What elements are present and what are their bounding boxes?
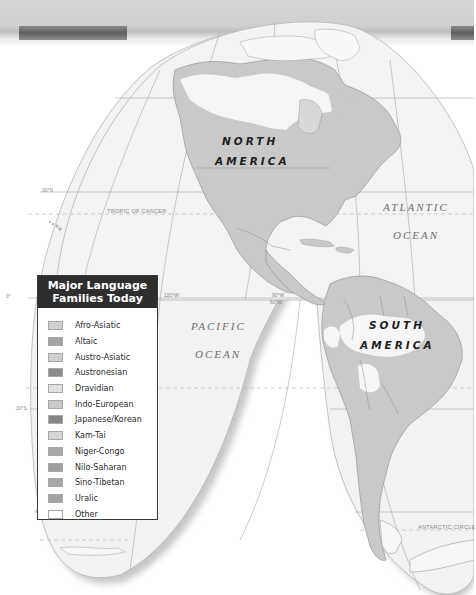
legend-label: Kam-Tai: [75, 431, 106, 440]
legend-item-uralic: Uralic: [38, 491, 157, 507]
swatch-icon: [48, 431, 63, 440]
label-tropic-of-cancer: TROPIC OF CANCER: [107, 208, 167, 214]
label-lat-30n: 30°N: [42, 187, 53, 193]
legend-label: Japanese/Korean: [75, 415, 142, 424]
swatch-icon: [48, 415, 63, 424]
swatch-icon: [48, 321, 63, 330]
label-lat-30s: 30°S: [16, 405, 27, 411]
label-north-america-line2: AMERICA: [215, 155, 290, 167]
label-north-america-line1: NORTH: [222, 135, 278, 147]
swatch-icon: [48, 400, 63, 409]
legend-label: Altaic: [75, 337, 97, 346]
legend-title-line1: Major Language: [40, 279, 155, 292]
legend-item-altaic: Altaic: [38, 334, 157, 350]
legend-label: Sino-Tibetan: [75, 478, 125, 487]
legend-list: Afro-Asiatic Altaic Austro-Asiatic Austr…: [38, 308, 157, 522]
legend-item-niger-congo: Niger-Congo: [38, 444, 157, 460]
legend-label: Austro-Asiatic: [75, 353, 130, 362]
legend-item-indo-european: Indo-European: [38, 396, 157, 412]
legend-label: Nilo-Saharan: [75, 463, 127, 472]
legend-label: Niger-Congo: [75, 447, 124, 456]
legend-item-dravidian: Dravidian: [38, 381, 157, 397]
legend-title: Major Language Families Today: [38, 276, 157, 308]
legend-item-sino-tibetan: Sino-Tibetan: [38, 475, 157, 491]
swatch-icon: [48, 368, 63, 377]
legend-item-japanese-korean: Japanese/Korean: [38, 412, 157, 428]
legend-item-austronesian: Austronesian: [38, 365, 157, 381]
legend-item-other: Other: [38, 506, 157, 522]
swatch-icon: [48, 510, 63, 519]
legend-label: Indo-European: [75, 400, 134, 409]
legend-label: Uralic: [75, 494, 98, 503]
swatch-icon: [48, 463, 63, 472]
legend: Major Language Families Today Afro-Asiat…: [37, 275, 158, 520]
swatch-icon: [48, 447, 63, 456]
swatch-icon: [48, 337, 63, 346]
label-lon-90w: 90°W: [272, 292, 284, 298]
legend-label: Dravidian: [75, 384, 114, 393]
swatch-icon: [48, 478, 63, 487]
label-antarctic-circle: ANTARCTIC CIRCLE: [418, 524, 476, 530]
swatch-icon: [48, 494, 63, 503]
legend-item-austro-asiatic: Austro-Asiatic: [38, 349, 157, 365]
legend-item-nilo-saharan: Nilo-Saharan: [38, 459, 157, 475]
legend-item-afro-asiatic: Afro-Asiatic: [38, 318, 157, 334]
label-south-america-line2: AMERICA: [360, 339, 435, 351]
label-atlantic-line1: ATLANTIC: [383, 201, 449, 213]
legend-label: Austronesian: [75, 368, 127, 377]
swatch-icon: [48, 384, 63, 393]
legend-label: Afro-Asiatic: [75, 321, 120, 330]
label-lon-60w: 60°W: [270, 299, 282, 305]
legend-title-line2: Families Today: [40, 292, 155, 305]
label-atlantic-line2: OCEAN: [393, 229, 439, 241]
legend-item-kam-tai: Kam-Tai: [38, 428, 157, 444]
label-pacific-line2: OCEAN: [195, 348, 241, 360]
label-pacific-line1: PACIFIC: [191, 320, 246, 332]
swatch-icon: [48, 353, 63, 362]
legend-label: Other: [75, 510, 98, 519]
label-lon-120w: 120°W: [164, 292, 179, 298]
label-south-america-line1: SOUTH: [369, 319, 425, 331]
label-lat-0: 0°: [6, 293, 11, 299]
